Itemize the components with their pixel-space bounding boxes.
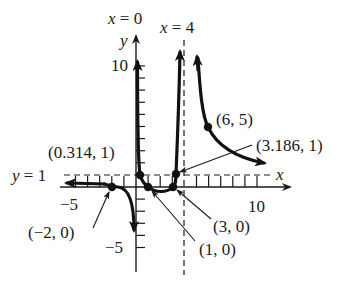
label-y-eq-1: y = 1 (10, 166, 46, 185)
point-label-1-0: (1, 0) (199, 240, 236, 259)
left-branch-tail (67, 183, 105, 184)
label-x-eq-4: x = 4 (159, 18, 195, 37)
point-neg2-0 (108, 183, 116, 191)
y-tick-label-neg5: −5 (105, 238, 123, 257)
point-0314-1 (136, 171, 144, 179)
middle-branch-left-rise (138, 62, 141, 175)
right-branch-top (197, 57, 198, 70)
middle-branch-right-rise (174, 52, 180, 187)
point-label-3-0: (3, 0) (213, 217, 250, 236)
y-axis-label: y (118, 31, 128, 50)
point-3186-1 (172, 170, 180, 178)
point-label-neg2: (−2, 0) (28, 223, 74, 242)
leader-neg2 (93, 192, 109, 228)
x-axis-label: x (275, 165, 284, 184)
point-1-0 (144, 183, 152, 191)
y-tick-label-10: 10 (111, 56, 128, 75)
rational-function-graph: x = 0 x = 4 y x y = 1 10 −5 −5 10 (0.314… (0, 0, 347, 283)
leader-3186 (180, 145, 252, 172)
leader-3-0 (177, 190, 211, 219)
x-tick-label-neg5: −5 (60, 195, 78, 214)
point-3-0 (169, 183, 177, 191)
leader-1-0 (152, 191, 195, 241)
x-tick-label-10: 10 (248, 197, 265, 216)
point-label-3186: (3.186, 1) (256, 136, 323, 155)
point-6-5 (204, 123, 212, 131)
label-x-eq-0: x = 0 (107, 9, 142, 28)
point-label-0314: (0.314, 1) (48, 143, 115, 162)
point-label-6-5: (6, 5) (216, 110, 253, 129)
left-branch-curve (104, 184, 134, 230)
